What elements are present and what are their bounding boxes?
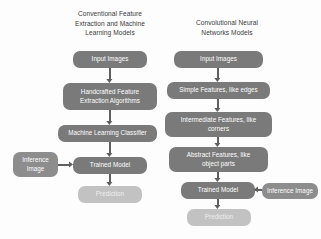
- node-input-images-cnn: Input Images: [174, 51, 263, 68]
- node-input-images-conventional: Input Images: [73, 51, 147, 68]
- node-handcrafted-feature-extraction: Handcrafted Feature Extraction Algorithm…: [63, 83, 157, 110]
- column-title-conventional: Conventional Feature Extraction and Mach…: [52, 9, 168, 38]
- node-simple-features: Simple Features, like edges: [167, 82, 270, 99]
- node-intermediate-features: Intermediate Features, like corners: [165, 112, 272, 137]
- node-abstract-features: Abstract Features, like object parts: [169, 147, 268, 172]
- column-title-cnn: Convolutional Neural Networks Models: [174, 18, 280, 37]
- diagram-canvas: Conventional Feature Extraction and Mach…: [0, 0, 321, 239]
- node-machine-learning-classifier: Machine Learning Classifier: [58, 125, 157, 142]
- node-trained-model-conventional: Trained Model: [73, 157, 147, 174]
- node-inference-image-conventional: Inference Image: [13, 152, 58, 177]
- node-prediction-conventional: Prediction: [78, 186, 142, 203]
- node-inference-image-cnn: Inference Image: [262, 183, 318, 199]
- node-trained-model-cnn: Trained Model: [181, 182, 255, 199]
- node-prediction-cnn: Prediction: [187, 209, 251, 226]
